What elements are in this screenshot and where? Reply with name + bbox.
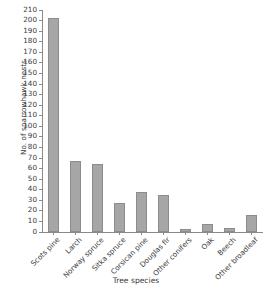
y-tick-label: 150 — [23, 69, 37, 77]
x-tick-mark — [119, 232, 120, 235]
x-tick-mark — [97, 232, 98, 235]
y-tick-mark — [39, 62, 42, 63]
bar — [114, 203, 125, 232]
y-tick-mark — [39, 115, 42, 116]
bar — [158, 195, 169, 232]
x-tick-mark — [207, 232, 208, 235]
y-tick-label: 70 — [28, 154, 37, 162]
y-tick-mark — [39, 136, 42, 137]
y-tick-label: 10 — [28, 217, 37, 225]
y-tick-mark — [39, 10, 42, 11]
y-tick-label: 30 — [28, 196, 37, 204]
y-tick-mark — [39, 94, 42, 95]
y-tick-mark — [39, 126, 42, 127]
y-tick-mark — [39, 20, 42, 21]
bar — [202, 224, 213, 232]
y-tick-label: 170 — [23, 48, 37, 56]
y-tick-label: 20 — [28, 206, 37, 214]
bar — [136, 192, 147, 232]
y-tick-label: 160 — [23, 58, 37, 66]
y-tick-label: 180 — [23, 37, 37, 45]
y-tick-label: 100 — [23, 122, 37, 130]
y-tick-mark — [39, 189, 42, 190]
y-tick-label: 110 — [23, 111, 37, 119]
y-tick-label: 140 — [23, 80, 37, 88]
bar-chart: No. of sparrowhawk nests 010203040506070… — [0, 0, 272, 291]
y-tick-mark — [39, 221, 42, 222]
y-tick-label: 60 — [28, 164, 37, 172]
y-tick-mark — [39, 105, 42, 106]
y-tick-mark — [39, 73, 42, 74]
y-tick-mark — [39, 158, 42, 159]
y-tick-label: 190 — [23, 27, 37, 35]
y-tick-label: 50 — [28, 175, 37, 183]
y-tick-mark — [39, 41, 42, 42]
bar — [92, 164, 103, 232]
y-tick-label: 200 — [23, 16, 37, 24]
x-tick-mark — [53, 232, 54, 235]
plot-area: 0102030405060708090100110120130140150160… — [42, 10, 262, 232]
y-tick-mark — [39, 232, 42, 233]
y-tick-label: 130 — [23, 90, 37, 98]
y-tick-mark — [39, 179, 42, 180]
y-tick-mark — [39, 200, 42, 201]
x-tick-mark — [141, 232, 142, 235]
y-tick-mark — [39, 84, 42, 85]
y-tick-label: 80 — [28, 143, 37, 151]
y-tick-mark — [39, 168, 42, 169]
y-tick-label: 40 — [28, 185, 37, 193]
bar — [246, 215, 257, 232]
x-tick-mark — [185, 232, 186, 235]
x-tick-mark — [251, 232, 252, 235]
y-tick-label: 0 — [32, 228, 37, 236]
x-tick-mark — [75, 232, 76, 235]
y-tick-label: 210 — [23, 6, 37, 14]
y-tick-mark — [39, 147, 42, 148]
bar — [70, 161, 81, 232]
y-tick-label: 90 — [28, 132, 37, 140]
y-tick-mark — [39, 31, 42, 32]
y-tick-mark — [39, 52, 42, 53]
y-tick-mark — [39, 210, 42, 211]
x-tick-mark — [229, 232, 230, 235]
y-tick-label: 120 — [23, 101, 37, 109]
bar — [48, 18, 59, 232]
x-tick-mark — [163, 232, 164, 235]
